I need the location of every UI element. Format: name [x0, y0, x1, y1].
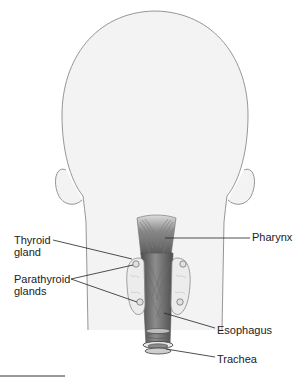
pharynx-label: Pharynx: [252, 231, 292, 243]
trachea-label: Trachea: [217, 353, 257, 365]
parathyroid-label-line2: glands: [14, 285, 70, 297]
anatomy-diagram: [0, 0, 306, 377]
thyroid-gland-label: Thyroid gland: [14, 234, 51, 258]
parathyroid-glands-label: Parathyroid glands: [14, 273, 70, 297]
pharynx: [137, 215, 176, 255]
thyroid-label-line2: gland: [14, 246, 51, 258]
parathyroid-label-line1: Parathyroid: [14, 273, 70, 285]
esophagus-label: Esophagus: [217, 324, 272, 336]
trachea-leader: [166, 349, 215, 357]
thyroid-label-line1: Thyroid: [14, 234, 51, 246]
